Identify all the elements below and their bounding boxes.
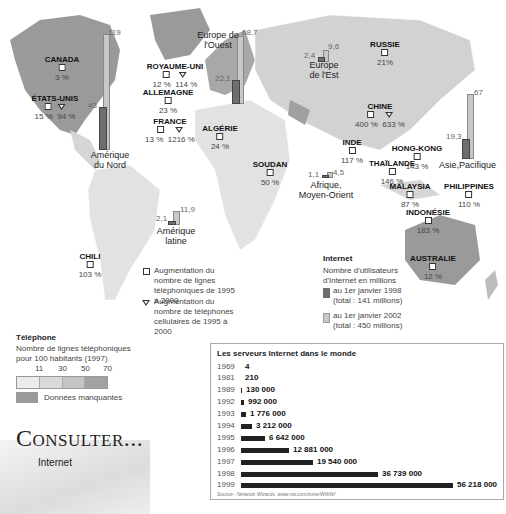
square-icon	[58, 64, 65, 71]
servers-chart: Les serveurs Internet dans le monde 1969…	[210, 343, 504, 500]
square-icon	[164, 97, 171, 104]
chart-row: 199956 218 000	[217, 480, 497, 490]
square-icon	[44, 103, 51, 110]
country-china: CHINE 400 % 633 %	[355, 102, 405, 129]
consulter-internet-link[interactable]: Internet	[38, 457, 72, 468]
square-icon	[406, 191, 413, 198]
square-icon	[87, 261, 94, 268]
square-icon	[465, 191, 472, 198]
square-icon	[349, 147, 356, 154]
triangle-icon	[175, 127, 183, 133]
square-icon	[430, 263, 437, 270]
chart-row: 199612 881 000	[217, 445, 333, 455]
square-icon	[381, 49, 388, 56]
square-icon	[367, 111, 374, 118]
chart-row: 199719 540 000	[217, 457, 357, 467]
chart-row: 19956 642 000	[217, 433, 305, 443]
bar-1998	[99, 107, 107, 150]
chart-row: 199836 739 000	[217, 469, 422, 479]
chart-row: 19943 212 000	[217, 421, 292, 431]
bar-1998	[462, 139, 470, 159]
square-icon	[163, 71, 170, 78]
chart-row: 1981210	[217, 373, 258, 383]
country-france: FRANCE 13 % 1216 %	[145, 117, 195, 144]
consulter-banner: Consulter... Internet	[0, 440, 150, 514]
chart-row: 19931 776 000	[217, 409, 286, 419]
country-usa: ÉTATS-UNIS 15 % 94 %	[32, 94, 79, 121]
telephone-scale	[16, 376, 108, 389]
square-icon	[266, 169, 273, 176]
missing-data-swatch	[16, 392, 38, 403]
swatch-1998	[323, 288, 330, 298]
chart-row: 1992992 000	[217, 397, 277, 407]
square-icon	[389, 168, 396, 175]
triangle-icon	[385, 112, 393, 118]
triangle-icon	[179, 72, 187, 78]
square-icon	[143, 268, 150, 275]
country-india: INDE 117 %	[341, 138, 363, 165]
bar-1998	[322, 175, 329, 178]
bar-1998	[168, 221, 176, 225]
country-australia: AUSTRALIE 12 %	[410, 254, 456, 281]
swatch-2002	[323, 313, 330, 323]
world-map: CANADA 3 % ÉTATS-UNIS 15 % 94 % ROYAUME-…	[0, 0, 506, 330]
country-indonesia: INDONÉSIE 183 %	[406, 208, 450, 235]
triangle-icon	[142, 300, 150, 306]
country-algeria: ALGÉRIE 24 %	[202, 124, 238, 151]
chart-row: 19694	[217, 362, 249, 372]
bar-1998	[232, 80, 240, 104]
square-icon	[217, 133, 224, 140]
country-malaysia: MALAYSIA 87 %	[389, 182, 430, 209]
country-uk: ROYAUME-UNI 12 % 114 %	[147, 62, 204, 89]
country-russia: RUSSIE 21%	[370, 40, 400, 67]
square-icon	[157, 126, 164, 133]
country-chile: CHILI 103 %	[79, 252, 102, 279]
square-icon	[424, 217, 431, 224]
country-philippines: PHILIPPINES 110 %	[444, 182, 494, 209]
chart-row: 1989130 000	[217, 385, 275, 395]
country-canada: CANADA 3 %	[45, 55, 80, 82]
country-germany: ALLEMAGNE 23 %	[143, 88, 194, 115]
country-sudan: SOUDAN 50 %	[253, 160, 288, 187]
triangle-icon	[58, 104, 66, 110]
